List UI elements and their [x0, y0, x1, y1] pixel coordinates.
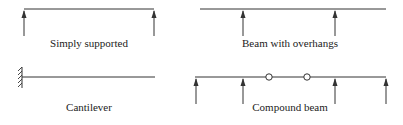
support-arrow-icon — [333, 78, 338, 104]
hinge-icon — [266, 74, 272, 80]
support-arrow-icon — [384, 78, 389, 104]
support-arrow-icon — [152, 10, 157, 36]
compound-beam: Compound beam — [194, 74, 389, 113]
hinge-icon — [304, 74, 310, 80]
cantilever-beam: Cantilever — [18, 67, 155, 113]
diagram-label: Simply supported — [50, 37, 128, 49]
beam-types-diagram: Simply supported Beam with overhangs Can… — [0, 0, 403, 125]
support-arrow-icon — [22, 10, 27, 36]
fixed-wall-icon — [18, 67, 22, 88]
simply-supported-beam: Simply supported — [22, 9, 157, 49]
support-arrow-icon — [241, 10, 246, 36]
diagram-label: Beam with overhangs — [242, 37, 338, 49]
diagram-label: Cantilever — [66, 101, 112, 113]
support-arrow-icon — [333, 10, 338, 36]
support-arrow-icon — [194, 78, 199, 104]
overhang-beam: Beam with overhangs — [200, 9, 386, 49]
diagram-label: Compound beam — [252, 101, 328, 113]
support-arrow-icon — [241, 78, 246, 104]
